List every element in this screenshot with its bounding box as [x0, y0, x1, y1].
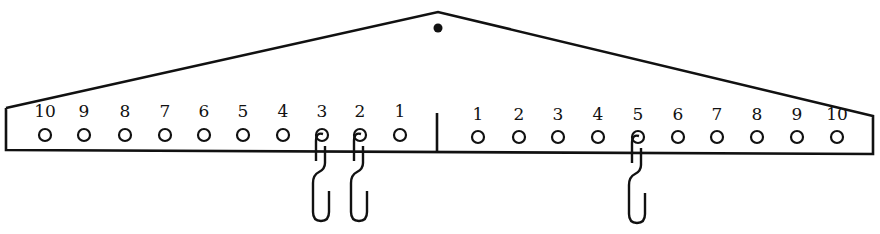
position-label: 3 — [553, 104, 564, 124]
peg-hole-icon — [277, 129, 289, 141]
position-label: 2 — [355, 101, 366, 121]
peg-hole-icon — [119, 129, 131, 141]
position-label: 4 — [593, 104, 604, 124]
peg-hole-icon — [237, 129, 249, 141]
left-position-9: 9 — [78, 101, 90, 141]
position-label: 4 — [278, 101, 289, 121]
position-label: 5 — [633, 104, 644, 124]
peg-hole-icon — [592, 131, 604, 143]
peg-hole-icon — [394, 129, 406, 141]
position-label: 7 — [160, 101, 171, 121]
beam-outline — [6, 12, 873, 154]
position-label: 8 — [752, 104, 763, 124]
peg-hole-icon — [552, 131, 564, 143]
position-label: 6 — [199, 101, 210, 121]
right-position-8: 8 — [751, 104, 763, 143]
left-position-5: 5 — [237, 101, 249, 141]
position-label: 1 — [473, 104, 484, 124]
peg-hole-icon — [78, 129, 90, 141]
peg-hole-icon — [472, 131, 484, 143]
hooks — [313, 134, 645, 223]
peg-hole-icon — [39, 129, 51, 141]
peg-hole-icon — [672, 131, 684, 143]
position-label: 10 — [826, 104, 848, 124]
diagram-canvas: 10987654321 12345678910 — [0, 0, 880, 234]
left-position-7: 7 — [159, 101, 171, 141]
balance-beam-diagram: 10987654321 12345678910 — [0, 0, 880, 234]
position-label: 8 — [120, 101, 131, 121]
pivot-dot-icon — [434, 24, 443, 33]
right-position-4: 4 — [592, 104, 604, 143]
peg-hole-icon — [513, 131, 525, 143]
left-position-1: 1 — [394, 101, 406, 141]
position-label: 9 — [79, 101, 90, 121]
right-position-6: 6 — [672, 104, 684, 143]
hook-weight-icon — [629, 136, 645, 223]
peg-hole-icon — [831, 131, 843, 143]
right-position-2: 2 — [513, 104, 525, 143]
left-position-4: 4 — [277, 101, 289, 141]
position-label: 7 — [712, 104, 723, 124]
position-label: 5 — [238, 101, 249, 121]
left-position-6: 6 — [198, 101, 210, 141]
position-label: 9 — [792, 104, 803, 124]
peg-hole-icon — [751, 131, 763, 143]
position-label: 3 — [317, 101, 328, 121]
hook-weight-icon — [313, 134, 329, 221]
right-position-3: 3 — [552, 104, 564, 143]
position-label: 6 — [673, 104, 684, 124]
position-label: 2 — [514, 104, 525, 124]
peg-hole-icon — [198, 129, 210, 141]
left-position-10: 10 — [34, 101, 56, 141]
peg-hole-icon — [711, 131, 723, 143]
position-label: 1 — [395, 101, 406, 121]
position-label: 10 — [34, 101, 56, 121]
right-position-10: 10 — [826, 104, 848, 143]
peg-hole-icon — [159, 129, 171, 141]
right-position-7: 7 — [711, 104, 723, 143]
right-arm: 12345678910 — [472, 104, 848, 143]
left-position-8: 8 — [119, 101, 131, 141]
peg-hole-icon — [791, 131, 803, 143]
hook-weight-icon — [351, 134, 367, 221]
right-position-1: 1 — [472, 104, 484, 143]
right-position-9: 9 — [791, 104, 803, 143]
left-arm: 10987654321 — [34, 101, 406, 141]
